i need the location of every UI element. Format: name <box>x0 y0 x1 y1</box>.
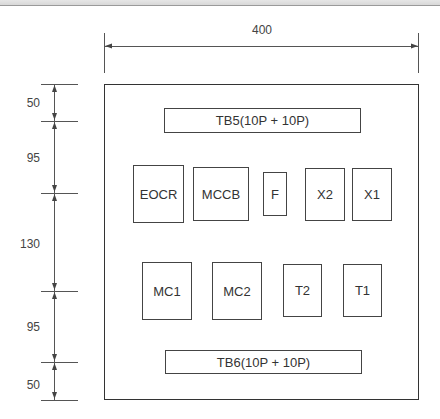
component-mc2: MC2 <box>212 262 262 320</box>
component-t2: T2 <box>283 264 322 317</box>
terminal-block-tb6-label: TB6(10P + 10P) <box>217 355 310 370</box>
component-mc1: MC1 <box>142 262 192 320</box>
terminal-block-tb5: TB5(10P + 10P) <box>164 108 361 133</box>
component-mc2-label: MC2 <box>223 284 250 299</box>
component-x2: X2 <box>305 168 345 221</box>
component-t1: T1 <box>343 264 382 317</box>
component-x1-label: X1 <box>364 187 380 202</box>
height-label-3: 130 <box>0 237 40 251</box>
component-t2-label: T2 <box>295 283 310 298</box>
height-label-2: 95 <box>0 151 40 165</box>
height-label-1: 50 <box>0 96 40 110</box>
height-label-4: 95 <box>0 320 40 334</box>
component-t1-label: T1 <box>355 283 370 298</box>
component-mccb-label: MCCB <box>202 187 240 202</box>
component-fuse: F <box>263 172 287 216</box>
component-fuse-label: F <box>271 187 279 202</box>
height-label-5: 50 <box>0 378 40 392</box>
terminal-block-tb6: TB6(10P + 10P) <box>165 350 362 374</box>
component-mccb: MCCB <box>193 167 249 221</box>
component-eocr: EOCR <box>133 165 184 223</box>
component-x1: X1 <box>352 168 392 221</box>
terminal-block-tb5-label: TB5(10P + 10P) <box>216 113 309 128</box>
component-eocr-label: EOCR <box>140 187 178 202</box>
component-mc1-label: MC1 <box>153 284 180 299</box>
component-x2-label: X2 <box>317 187 333 202</box>
